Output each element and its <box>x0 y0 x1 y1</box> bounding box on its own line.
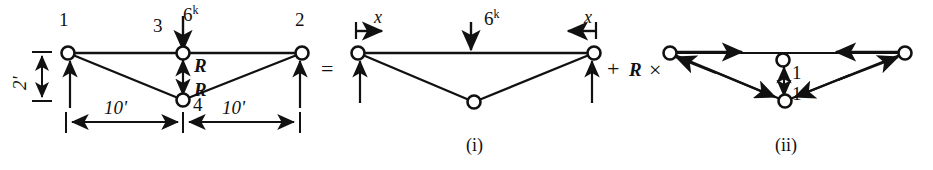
force-arrow-diag-left-lower-ii <box>705 68 775 97</box>
joint-label-1: 1 <box>59 10 69 29</box>
unit-label-bottom: 1 <box>792 84 802 103</box>
joint-label-3: 3 <box>153 16 163 35</box>
caption-ii: (ii) <box>775 136 797 154</box>
force-arrow-diag-right-lower-ii <box>795 75 850 97</box>
joint-1 <box>62 47 75 60</box>
joint-3 <box>177 47 190 60</box>
span-dimension-left: 10' <box>104 98 127 117</box>
joint-label-2: 2 <box>295 10 305 29</box>
height-dimension-label: 2' <box>10 76 29 90</box>
joint-i-right <box>588 47 601 60</box>
joint-2 <box>296 47 309 60</box>
r-multiplier-symbol: R <box>629 60 642 79</box>
applied-load-unit: k <box>193 3 199 17</box>
panel-original-truss <box>32 16 309 133</box>
joint-i-left <box>352 47 365 60</box>
applied-load-unit-i: k <box>494 7 500 21</box>
joint-i-bottom <box>468 96 481 109</box>
joint-ii-upper-mid <box>777 54 790 67</box>
equals-operator: = <box>321 58 333 80</box>
redundant-label-bottom: R <box>194 80 207 99</box>
applied-load-value-i: 6 <box>484 8 494 29</box>
figure-canvas: 1 2 3 4 6k R R 2' 10' 10' = + R × x x 6k… <box>0 0 933 170</box>
member-left-diagonal <box>68 53 183 100</box>
plus-operator: + <box>607 58 619 80</box>
span-dimension-right: 10' <box>222 98 245 117</box>
joint-4 <box>177 94 190 107</box>
x-label-right: x <box>584 8 592 26</box>
unit-label-top: 1 <box>792 63 802 82</box>
member-right-diagonal-i <box>474 53 594 102</box>
caption-i: (i) <box>466 136 483 154</box>
member-left-diagonal-i <box>358 53 474 102</box>
applied-load-label-i: 6k <box>484 8 500 28</box>
joint-ii-lower-mid <box>779 95 792 108</box>
times-operator: × <box>649 59 661 81</box>
redundant-label-top: R <box>194 56 207 75</box>
x-label-left: x <box>374 8 382 26</box>
joint-ii-right <box>899 47 912 60</box>
panel-primary-system <box>352 22 601 109</box>
applied-load-value: 6 <box>183 4 193 25</box>
panel-unit-system <box>664 47 912 108</box>
applied-load-label: 6k <box>183 4 199 24</box>
joint-ii-left <box>664 47 677 60</box>
